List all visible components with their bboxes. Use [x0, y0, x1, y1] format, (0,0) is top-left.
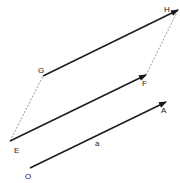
point-label-E: E	[14, 146, 19, 155]
point-label-O: O	[25, 172, 31, 181]
dashed-segment-FH	[146, 10, 178, 75]
dashed-segment-EG	[10, 76, 43, 141]
vector-OA	[30, 102, 166, 168]
vector-label-a: a	[95, 139, 100, 148]
point-label-F: F	[142, 79, 147, 88]
point-label-G: G	[38, 66, 44, 75]
vector-EF	[10, 75, 146, 141]
point-label-H: H	[164, 5, 170, 14]
vector-diagram: H G F A E O a	[0, 0, 180, 183]
point-label-A: A	[161, 106, 167, 115]
vector-GH	[43, 10, 178, 76]
